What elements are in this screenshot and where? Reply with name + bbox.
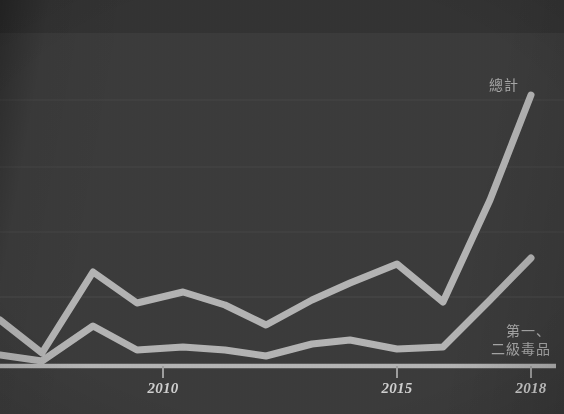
x-tick-label-2018: 2018 — [514, 380, 546, 396]
top-dark-band — [0, 0, 564, 33]
series-label-total: 總計 — [489, 77, 519, 93]
x-tick-label-2010: 2010 — [146, 380, 178, 396]
line-chart: 2010 2015 2018 總計 第一、 二級毒品 — [0, 0, 564, 414]
chart-screenshot: 2010 2015 2018 總計 第一、 二級毒品 — [0, 0, 564, 414]
series-label-grade12-line2: 二級毒品 — [491, 341, 551, 357]
x-tick-label-2015: 2015 — [380, 380, 412, 396]
series-label-grade12-line1: 第一、 — [506, 323, 551, 339]
